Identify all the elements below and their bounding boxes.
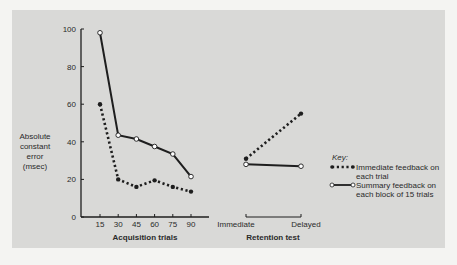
y-axis-label: constant xyxy=(20,142,51,151)
x-tick-label: 45 xyxy=(132,220,141,229)
marker-filled xyxy=(152,178,156,182)
x-axis-label-retention: Retention test xyxy=(246,233,300,242)
y-tick-label: 20 xyxy=(67,175,76,184)
y-axis-label: error xyxy=(27,152,44,161)
y-axis-label: (msec) xyxy=(23,162,48,171)
marker-filled xyxy=(171,185,175,189)
y-tick-label: 40 xyxy=(67,138,76,147)
legend-label: each block of 15 trials xyxy=(356,190,433,199)
legend-label: Summary feedback on xyxy=(356,181,436,190)
marker-filled xyxy=(189,189,193,193)
x-tick-label: 30 xyxy=(114,220,123,229)
marker-filled xyxy=(116,177,120,181)
y-tick-label: 80 xyxy=(67,63,76,72)
marker-open xyxy=(299,164,304,169)
acquisition-series-1-line-solid xyxy=(100,33,191,177)
y-tick-label: 60 xyxy=(67,100,76,109)
x-tick-label: 90 xyxy=(187,220,196,229)
x-tick-label: Delayed xyxy=(291,220,320,229)
marker-open xyxy=(98,30,103,35)
legend-label: each trial xyxy=(356,172,389,181)
marker-open xyxy=(134,137,139,142)
legend-marker-filled xyxy=(330,165,334,169)
y-tick-label: 0 xyxy=(72,213,77,222)
legend-marker-open xyxy=(351,183,355,187)
marker-filled xyxy=(244,157,248,161)
line-chart: 020406080100Absoluteconstanterror(msec)1… xyxy=(0,0,457,265)
acquisition-series-0-line-dotted xyxy=(100,104,191,191)
marker-filled xyxy=(98,102,102,106)
retention-bracket xyxy=(246,214,301,217)
legend-label: Immediate feedback on xyxy=(356,163,439,172)
x-tick-label: 15 xyxy=(96,220,105,229)
legend-marker-open xyxy=(330,183,334,187)
marker-open xyxy=(171,152,176,157)
legend-title: Key: xyxy=(332,153,348,162)
marker-open xyxy=(189,174,194,179)
marker-open xyxy=(116,133,121,138)
marker-open xyxy=(244,162,249,167)
retention-series-0-line-dotted xyxy=(246,114,301,159)
marker-open xyxy=(152,144,157,149)
x-tick-label: Immediate xyxy=(217,220,255,229)
x-axis-label-acquisition: Acquisition trials xyxy=(113,233,178,242)
y-axis-label: Absolute xyxy=(19,132,51,141)
legend-marker-filled xyxy=(351,165,355,169)
marker-filled xyxy=(299,111,303,115)
x-tick-label: 60 xyxy=(150,220,159,229)
marker-filled xyxy=(134,185,138,189)
x-tick-label: 75 xyxy=(168,220,177,229)
y-tick-label: 100 xyxy=(63,25,77,34)
retention-series-1-line-solid xyxy=(246,164,301,166)
